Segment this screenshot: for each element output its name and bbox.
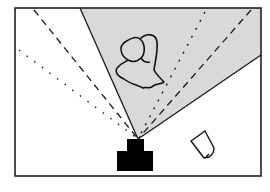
camera-lens-housing xyxy=(127,139,144,151)
camera-view-diagram xyxy=(0,0,270,192)
camera-body xyxy=(117,151,153,171)
